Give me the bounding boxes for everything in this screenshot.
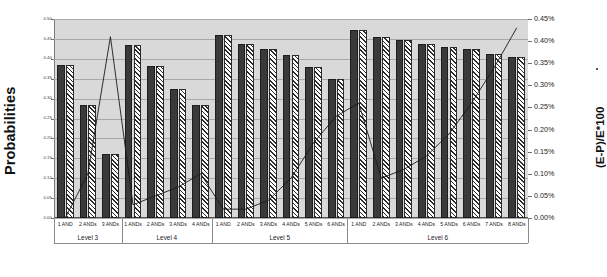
x-axis-level-separator (528, 219, 529, 243)
x-axis-category-label: 4 ANDs (189, 219, 212, 229)
y-axis-right-tick-label: 0.25% (534, 103, 554, 110)
y-axis-right-tickmark (528, 152, 532, 153)
x-axis-category-label: 2 ANDs (77, 219, 100, 229)
x-axis-category-label: 6 ANDs (460, 219, 483, 229)
y-axis-right-tick-label: 0.10% (534, 170, 554, 177)
y-axis-right-tick-label: 0.40% (534, 37, 554, 44)
right-margin-artifact (596, 68, 598, 70)
y-axis-right-tickmark (528, 130, 532, 131)
y-axis-right-tickmark (528, 174, 532, 175)
x-axis-category-label: 5 ANDs (438, 219, 461, 229)
x-axis-baseline (54, 243, 528, 244)
x-axis-category-label: 2 ANDs (144, 219, 167, 229)
x-axis-category-label: 5 ANDs (302, 219, 325, 229)
y-axis-right-tick-label: 0.45% (534, 15, 554, 22)
x-axis-category-label: 3 ANDs (167, 219, 190, 229)
x-axis-category-label: 7 ANDs (483, 219, 506, 229)
y-axis-right-tickmark (528, 196, 532, 197)
chart-container: Probabilities (E-P)/E*100 0.500.450.400.… (0, 0, 607, 277)
y-axis-right-tickmark (528, 63, 532, 64)
y-axis-right-title: (E-P)/E*100 (594, 62, 606, 212)
x-axis-level-label: Level 5 (212, 232, 347, 243)
y-axis-right-tick-label: 0.00% (534, 214, 554, 221)
x-axis-level-separator (122, 219, 123, 243)
x-axis-category-label: 1 AND (347, 219, 370, 229)
x-axis-level-label: Level 3 (54, 232, 122, 243)
line-series (54, 19, 528, 218)
x-axis-category-label: 2 ANDs (370, 219, 393, 229)
x-axis-level-label: Level 6 (347, 232, 528, 243)
y-axis-right-tick-label: 0.30% (534, 81, 554, 88)
x-axis-level-separator (347, 219, 348, 243)
y-axis-right-tickmark (528, 107, 532, 108)
x-axis-category-label: 4 ANDs (280, 219, 303, 229)
x-axis-category-label: 3 ANDs (257, 219, 280, 229)
x-axis-category-label: 4 ANDs (415, 219, 438, 229)
line-series-path (65, 28, 516, 218)
y-axis-left-title: Probabilities (2, 46, 18, 216)
x-axis-category-label: 2 ANDs (235, 219, 258, 229)
y-axis-right-tick-label: 0.20% (534, 126, 554, 133)
x-axis-level-separator (212, 219, 213, 243)
y-axis-right-tickmark (528, 19, 532, 20)
x-axis-category-label: 6 ANDs (325, 219, 348, 229)
x-axis-level-label: Level 4 (122, 232, 212, 243)
x-axis-category-label: 1 AND (212, 219, 235, 229)
x-axis-category-label: 3 ANDs (393, 219, 416, 229)
y-axis-right-tick-label: 0.35% (534, 59, 554, 66)
x-axis-category-label: 8 ANDs (505, 219, 528, 229)
x-axis-category-label: 1 ANDs (122, 219, 145, 229)
y-axis-right-tick-label: 0.15% (534, 148, 554, 155)
x-axis-category-label: 1 AND (54, 219, 77, 229)
top-artifact (8, 2, 308, 9)
y-axis-right-tickmark (528, 85, 532, 86)
y-axis-right-tick-label: 0.05% (534, 192, 554, 199)
x-axis-category-label: 3 ANDs (99, 219, 122, 229)
y-axis-right-tickmark (528, 41, 532, 42)
x-axis-level-separator (54, 219, 55, 243)
